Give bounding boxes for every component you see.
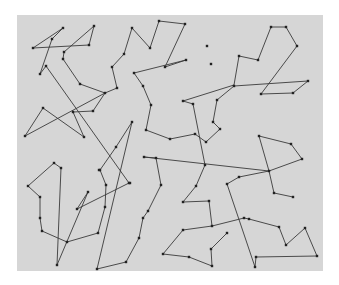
graph-node xyxy=(216,99,218,101)
graph-node xyxy=(111,66,113,68)
graph-node xyxy=(301,158,303,160)
graph-node xyxy=(41,230,43,232)
graph-node xyxy=(292,196,294,198)
graph-node xyxy=(72,111,74,113)
path-diagram xyxy=(0,0,339,285)
graph-node xyxy=(208,200,210,202)
graph-node xyxy=(24,135,26,137)
graph-node xyxy=(285,26,287,28)
graph-node xyxy=(296,45,298,47)
graph-node xyxy=(238,176,240,178)
graph-node xyxy=(184,23,186,25)
graph-node xyxy=(142,85,144,87)
graph-node xyxy=(150,104,152,106)
graph-node xyxy=(39,73,41,75)
graph-node xyxy=(131,27,133,29)
graph-node xyxy=(219,128,221,130)
graph-node xyxy=(278,226,280,228)
graph-node xyxy=(99,169,101,171)
graph-node xyxy=(290,143,292,145)
graph-node xyxy=(226,183,228,185)
graph-node xyxy=(62,58,64,60)
graph-node xyxy=(145,129,147,131)
graph-node xyxy=(182,229,184,231)
graph-node xyxy=(182,100,184,102)
graph-node xyxy=(257,59,259,61)
graph-node xyxy=(32,47,34,49)
graph-node xyxy=(42,107,44,109)
graph-node xyxy=(104,206,106,208)
graph-node xyxy=(273,192,275,194)
graph-node xyxy=(270,26,272,28)
graph-node xyxy=(83,136,85,138)
graph-node xyxy=(104,92,106,94)
graph-node xyxy=(233,85,235,87)
graph-node xyxy=(53,162,55,164)
graph-node xyxy=(116,87,118,89)
graph-node xyxy=(204,164,206,166)
graph-node xyxy=(76,208,78,210)
graph-node xyxy=(260,93,262,95)
graph-node xyxy=(211,225,213,227)
graph-node xyxy=(66,241,68,243)
graph-node xyxy=(79,83,81,85)
graph-node xyxy=(87,191,89,193)
graph-node xyxy=(182,201,184,203)
graph-node xyxy=(211,265,213,267)
graph-node xyxy=(39,217,41,219)
graph-node xyxy=(255,256,257,258)
graph-node xyxy=(185,59,187,61)
graph-node xyxy=(162,253,164,255)
graph-node xyxy=(115,146,117,148)
graph-node xyxy=(143,156,145,158)
graph-node xyxy=(316,255,318,257)
graph-node xyxy=(164,66,166,68)
graph-node xyxy=(45,65,47,67)
graph-node xyxy=(192,103,194,105)
graph-node xyxy=(51,38,53,40)
graph-node xyxy=(105,184,107,186)
graph-node xyxy=(195,185,197,187)
graph-node xyxy=(147,210,149,212)
graph-node xyxy=(125,261,127,263)
graph-node xyxy=(188,256,190,258)
graph-node xyxy=(307,80,309,82)
graph-node xyxy=(56,264,58,266)
graph-node xyxy=(92,110,94,112)
graph-node xyxy=(205,141,207,143)
graph-node xyxy=(96,268,98,270)
graph-node xyxy=(27,185,29,187)
graph-node xyxy=(212,121,214,123)
graph-node xyxy=(210,63,212,65)
canvas-background xyxy=(17,15,323,271)
graph-node xyxy=(292,92,294,94)
graph-node xyxy=(131,121,133,123)
graph-node xyxy=(149,47,151,49)
graph-node xyxy=(97,232,99,234)
graph-node xyxy=(258,135,260,137)
graph-node xyxy=(254,266,256,268)
graph-node xyxy=(304,227,306,229)
graph-node xyxy=(243,217,245,219)
graph-node xyxy=(285,244,287,246)
graph-node xyxy=(62,27,64,29)
graph-node xyxy=(60,167,62,169)
graph-node xyxy=(226,232,228,234)
graph-node xyxy=(160,184,162,186)
graph-node xyxy=(133,72,135,74)
graph-node xyxy=(63,51,65,53)
graph-node xyxy=(194,133,196,135)
graph-node xyxy=(123,53,125,55)
graph-node xyxy=(129,182,131,184)
graph-node xyxy=(93,25,95,27)
graph-node xyxy=(88,44,90,46)
graph-node xyxy=(155,157,157,159)
graph-node xyxy=(169,138,171,140)
graph-node xyxy=(248,218,250,220)
graph-node xyxy=(268,170,270,172)
graph-node xyxy=(206,45,208,47)
graph-node xyxy=(158,20,160,22)
graph-node xyxy=(210,248,212,250)
graph-node xyxy=(142,217,144,219)
graph-node xyxy=(238,55,240,57)
